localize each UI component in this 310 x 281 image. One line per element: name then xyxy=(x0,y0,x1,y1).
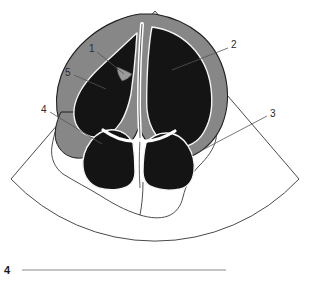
figure-root: 1 2 3 4 5 4 xyxy=(0,0,310,281)
label-1: 1 xyxy=(89,43,95,54)
label-3: 3 xyxy=(270,108,276,119)
label-4: 4 xyxy=(41,104,47,115)
caption-group: 4 xyxy=(4,264,226,276)
caption-number: 4 xyxy=(4,264,11,276)
label-2: 2 xyxy=(231,39,237,50)
echocardiogram-diagram: 1 2 3 4 5 4 xyxy=(0,0,310,281)
label-5: 5 xyxy=(65,67,71,78)
